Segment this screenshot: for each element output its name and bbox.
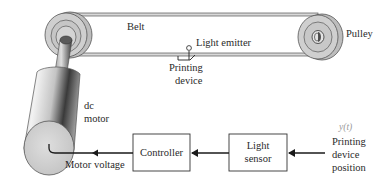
belt-label: Belt — [127, 21, 145, 32]
pulley-label: Pulley — [346, 28, 374, 39]
output-label-3: position — [332, 162, 367, 173]
light-sensor-label-1: Light — [247, 140, 270, 151]
motor-label-2: motor — [84, 113, 110, 124]
light-sensor-label-2: sensor — [245, 153, 272, 164]
light-emitter-icon — [187, 46, 192, 51]
motor-label-1: dc — [84, 100, 94, 111]
output-label-1: Printing — [332, 136, 367, 147]
light-sensor-block: Light sensor — [229, 134, 287, 171]
output-symbol: y(t) — [338, 122, 352, 133]
motor-voltage-label: Motor voltage — [65, 159, 125, 170]
light-emitter-label: Light emitter — [196, 37, 252, 48]
output-label-2: device — [332, 149, 360, 160]
diagram-canvas: Belt Light emitter Printing device Pulle… — [0, 0, 386, 186]
controller-label: Controller — [140, 147, 184, 158]
printing-device-label-1: Printing — [169, 62, 204, 73]
printing-device-label-2: device — [175, 75, 203, 86]
controller-block: Controller — [133, 134, 190, 171]
belt — [68, 13, 318, 56]
motor-voltage-arrowhead — [92, 150, 98, 157]
idler-pulley — [298, 14, 343, 60]
